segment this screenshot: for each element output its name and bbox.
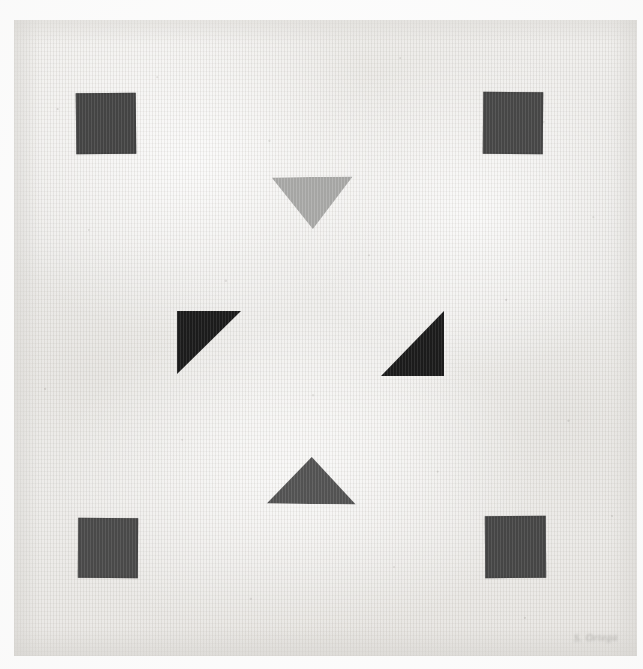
square-grain [78,518,138,578]
square-bottom-right [485,516,546,578]
triangle-bottom-pointing-up-icon [267,457,356,505]
square-grain [76,93,137,155]
square-bottom-left [78,518,138,578]
artist-signature: S. Ortega [574,631,618,643]
square-top-right [483,92,544,155]
square-top-left [76,93,137,155]
square-grain [483,92,544,155]
square-grain [485,516,546,578]
artwork-canvas: S. Ortega [0,0,643,669]
triangle-left-black-icon [177,311,241,374]
shape-layer [0,0,643,669]
triangle-top-pointing-down-icon [272,176,354,229]
triangle-right-black-icon [381,311,444,376]
